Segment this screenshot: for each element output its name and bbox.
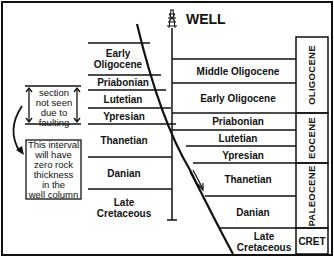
right-unit-late-cretaceous: Late Cretaceous (232, 231, 296, 253)
right-unit-early-oligocene: Early Oligocene (180, 93, 296, 104)
left-unit-early-oligocene: Early Oligocene (88, 48, 148, 70)
right-unit-ypresian: Ypresian (190, 150, 296, 161)
well-title: WELL (186, 11, 226, 27)
right-unit-priabonian: Priabonian (180, 116, 296, 127)
missing-section-note: section not seen due to faulting (32, 88, 76, 128)
period-oligocene: OLIGOCENE (306, 35, 318, 115)
diagram-lines (0, 0, 334, 258)
right-unit-lutetian: Lutetian (180, 133, 296, 144)
left-unit-ypresian: Ypresian (88, 111, 160, 122)
left-unit-thanetian: Thanetian (88, 135, 160, 146)
curved-arrow-icon (13, 106, 22, 152)
left-unit-lutetian: Lutetian (88, 94, 158, 105)
period-cret: CRET (296, 236, 328, 247)
zero-thickness-note: This interval will have zero rock thickn… (26, 140, 81, 200)
right-unit-thanetian: Thanetian (200, 174, 296, 185)
period-paleocene: PALEOCENE (306, 156, 318, 236)
right-unit-middle-oligocene: Middle Oligocene (180, 66, 296, 77)
derrick-icon (167, 10, 177, 28)
fault-well-diagram: WELL Early Oligocene Priabonian Lutetian… (0, 0, 334, 258)
left-unit-priabonian: Priabonian (88, 77, 158, 88)
left-unit-late-cretaceous: Late Cretaceous (88, 197, 160, 219)
left-unit-danian: Danian (88, 168, 160, 179)
right-unit-danian: Danian (210, 207, 296, 218)
